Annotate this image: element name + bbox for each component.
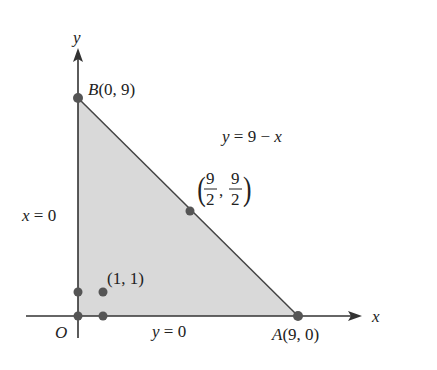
point-origin [74,312,83,321]
diagram-canvas: y x O B(0, 9) A(9, 0) (1, 1) y = 9 − x x… [0,0,437,370]
line-left-label: x = 0 [21,206,56,225]
point-0-1 [74,288,83,297]
svg-text:9: 9 [231,169,240,188]
svg-text:,: , [219,181,223,200]
point-a [293,311,303,321]
point-b [73,93,83,103]
point-midpoint-label: ( 9 2 , 9 2 ) [197,169,251,209]
svg-text:2: 2 [231,190,240,209]
point-b-label: B(0, 9) [88,80,135,99]
origin-label: O [55,323,67,342]
point-midpoint [186,207,195,216]
svg-text:9: 9 [206,169,215,188]
y-axis-label: y [71,28,81,47]
point-a-label: A(9, 0) [271,325,319,344]
point-1-1-label: (1, 1) [107,269,144,288]
line-top-label: y = 9 − x [220,127,282,146]
point-1-1 [99,288,108,297]
line-bottom-label: y = 0 [150,322,186,341]
x-axis-label: x [371,307,380,326]
point-1-0 [99,312,108,321]
svg-text:2: 2 [206,190,215,209]
svg-text:): ) [243,169,251,207]
